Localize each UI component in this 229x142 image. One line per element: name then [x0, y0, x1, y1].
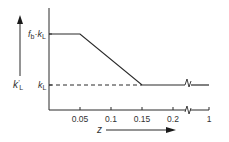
x-tick-label: 0.1: [105, 114, 117, 124]
series-break-icon: [185, 79, 191, 87]
x-label-arrow-icon: [166, 127, 176, 133]
x-axis-label: z: [96, 124, 102, 135]
x-tick-label: 1: [207, 114, 212, 124]
x-tick-label: 0.05: [72, 114, 89, 124]
x-tick-label: 0.2: [167, 114, 179, 124]
x-axis-break-icon: [185, 106, 191, 114]
y-axis-label: k'L: [13, 79, 23, 91]
chart: 0.050.10.150.21 k'L fb·kL kL z: [0, 0, 229, 142]
series-solid-line: [49, 34, 185, 85]
y-tick-label-upper: fb·kL: [28, 29, 46, 40]
lower-k-sub: L: [43, 84, 47, 91]
y-axis-label-sub: L: [19, 84, 23, 91]
x-tick-label: 0.15: [134, 114, 151, 124]
y-tick-label-lower: kL: [38, 80, 47, 91]
upper-k-sub: L: [42, 33, 46, 40]
y-label-arrow-icon: [17, 15, 23, 24]
